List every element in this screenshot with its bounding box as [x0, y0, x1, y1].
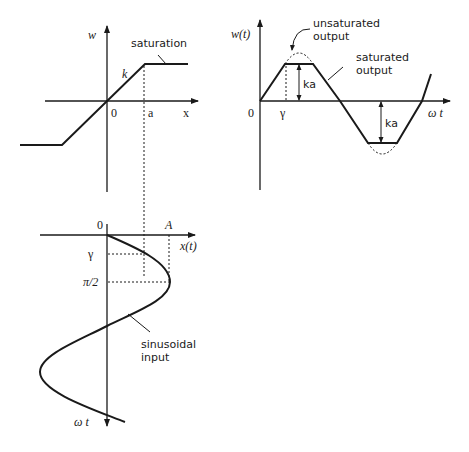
origin-label: 0 — [111, 106, 117, 120]
input-gamma-label: γ — [87, 247, 94, 261]
ka-label-top: ka — [303, 78, 316, 91]
unsaturated-pointer — [292, 29, 310, 50]
amplitude-label: A — [164, 218, 173, 232]
x-axis-label: x — [183, 106, 189, 120]
saturation-plot: w 0 a x k saturation — [20, 26, 198, 276]
saturation-annotation: saturation — [131, 37, 187, 50]
unsaturated-label-line1: unsaturated — [313, 17, 380, 30]
saturation-pointer — [158, 55, 166, 64]
unsaturated-label-line2: output — [313, 30, 350, 43]
diagram-canvas: w 0 a x k saturation w(t) 0 γ ω t ka ka … — [0, 0, 469, 452]
pi-half-label: π/2 — [83, 275, 98, 289]
saturated-label-line2: output — [356, 64, 393, 77]
slope-label: k — [122, 67, 128, 81]
saturated-pointer — [328, 67, 343, 80]
saturation-curve — [20, 64, 188, 145]
unsaturated-output-top — [285, 53, 313, 64]
output-plot: w(t) 0 γ ω t ka ka unsaturated output sa… — [231, 17, 450, 190]
xt-axis-label: x(t) — [179, 239, 197, 253]
threshold-label: a — [148, 106, 154, 120]
ka-label-bottom: ka — [385, 117, 398, 130]
unsaturated-output-bottom — [368, 143, 397, 154]
omega-t-label: ω t — [428, 106, 443, 120]
saturated-label-line1: saturated — [356, 51, 409, 64]
sinusoidal-input-curve — [40, 235, 170, 422]
omega-t-vertical-label: ω t — [74, 415, 89, 429]
sinusoidal-label-line1: sinusoidal — [141, 338, 196, 351]
input-origin-label: 0 — [97, 218, 103, 232]
w-axis-label: w — [88, 28, 96, 42]
wt-axis-label: w(t) — [231, 27, 250, 41]
gamma-label: γ — [279, 106, 286, 120]
input-plot: 0 A x(t) γ π/2 sinusoidal input ω t — [40, 218, 197, 429]
output-origin-label: 0 — [248, 106, 254, 120]
sinusoidal-pointer — [128, 314, 150, 332]
sinusoidal-label-line2: input — [141, 351, 170, 364]
